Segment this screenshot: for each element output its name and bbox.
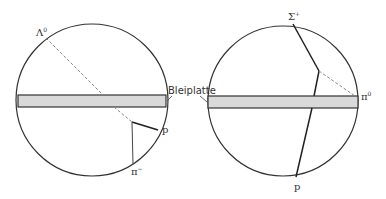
pi0-track [319,71,355,96]
lambda0-track-lower [114,107,132,122]
label-proton-left: p [162,125,168,135]
right-chamber [208,24,358,177]
lambda0-track-upper [46,38,103,95]
label-pi0: π0 [361,91,371,102]
label-proton-right: p [294,182,300,192]
label-sigma-plus: Σ+ [288,11,300,22]
left-chamber [16,24,168,176]
proton-track-left [132,122,158,130]
label-pi-minus: π− [131,166,143,177]
proton-track-right-lower [296,108,312,177]
left-lead-plate [18,95,166,107]
plate-label: Bleiplatte [168,86,216,96]
diagram-canvas [0,0,386,199]
sigma-track [293,24,319,71]
pion-track-left [132,122,133,164]
plate-leader-right [200,96,207,102]
right-lead-plate [208,96,358,108]
label-lambda0: Λ0 [36,27,47,38]
proton-track-right-upper [314,71,319,96]
